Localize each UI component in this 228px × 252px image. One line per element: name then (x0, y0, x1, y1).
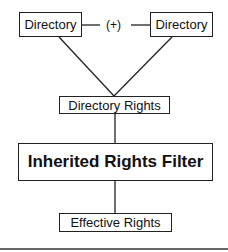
inherited-rights-filter-label: Inherited Rights Filter (28, 152, 204, 172)
directory-rights-label: Directory Rights (68, 98, 160, 113)
inherited-rights-filter-box: Inherited Rights Filter (18, 143, 213, 181)
directory-left-label: Directory (24, 17, 76, 32)
directory-rights-box: Directory Rights (59, 96, 170, 114)
rights-flow-diagram: Directory (+) Directory Directory Rights… (0, 0, 228, 252)
directory-box-left: Directory (19, 12, 82, 37)
effective-rights-box: Effective Rights (59, 213, 172, 232)
bottom-divider (0, 248, 228, 250)
directory-box-right: Directory (150, 12, 213, 37)
combine-label: (+) (104, 19, 123, 31)
directory-right-label: Directory (155, 17, 207, 32)
effective-rights-label: Effective Rights (70, 215, 160, 230)
